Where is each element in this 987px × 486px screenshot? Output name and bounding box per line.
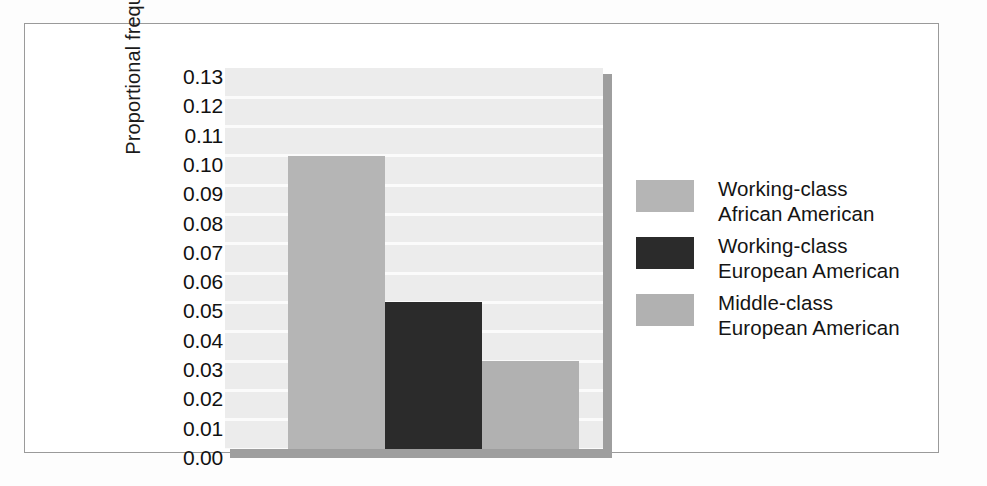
- legend: Working-classAfrican AmericanWorking-cla…: [636, 176, 956, 347]
- gridline: [225, 125, 603, 128]
- y-tick-label: 0.03: [183, 359, 223, 380]
- legend-label-line1: Middle-class: [718, 290, 900, 315]
- plot-shadow-right: [603, 74, 612, 455]
- legend-label: Middle-classEuropean American: [718, 290, 900, 340]
- y-tick-label: 0.05: [183, 300, 223, 321]
- bar-2: [385, 302, 482, 449]
- legend-item[interactable]: Working-classAfrican American: [636, 176, 956, 226]
- plot-axis-baseline: [230, 449, 612, 458]
- figure-frame: Proportional frequency 0.13 0.12 0.11 0.…: [24, 23, 939, 453]
- legend-label-line2: European American: [718, 315, 900, 340]
- legend-label-line2: African American: [718, 201, 875, 226]
- y-tick-label: 0.13: [183, 66, 223, 87]
- bar-chart: Proportional frequency 0.13 0.12 0.11 0.…: [125, 54, 625, 474]
- legend-swatch-icon: [636, 294, 694, 326]
- legend-swatch-icon: [636, 180, 694, 212]
- gridline: [225, 272, 603, 275]
- legend-label-line1: Working-class: [718, 233, 900, 258]
- gridline: [225, 213, 603, 216]
- y-tick-label: 0.11: [184, 125, 223, 146]
- y-tick-label: 0.01: [183, 418, 223, 439]
- legend-label-line1: Working-class: [718, 176, 875, 201]
- y-tick-label: 0.00: [183, 447, 223, 468]
- y-tick-label: 0.04: [183, 330, 223, 351]
- y-tick-label: 0.02: [183, 388, 223, 409]
- y-tick-label: 0.08: [183, 213, 223, 234]
- plot-area: [225, 68, 603, 449]
- bar-1: [288, 156, 385, 449]
- legend-label-line2: European American: [718, 258, 900, 283]
- y-tick-label: 0.06: [183, 271, 223, 292]
- y-tick-label: 0.09: [183, 183, 223, 204]
- legend-swatch-icon: [636, 237, 694, 269]
- plot-area-wrapper: [225, 68, 611, 460]
- legend-label: Working-classAfrican American: [718, 176, 875, 226]
- gridline: [225, 184, 603, 187]
- gridline: [225, 96, 603, 99]
- y-tick-label: 0.12: [183, 95, 223, 116]
- bar-3: [482, 361, 579, 449]
- y-tick-label: 0.07: [183, 242, 223, 263]
- gridline: [225, 242, 603, 245]
- y-tick-label: 0.10: [183, 154, 223, 175]
- legend-item[interactable]: Middle-classEuropean American: [636, 290, 956, 340]
- legend-label: Working-classEuropean American: [718, 233, 900, 283]
- gridline: [225, 154, 603, 157]
- chart-page: Proportional frequency 0.13 0.12 0.11 0.…: [0, 0, 987, 486]
- y-axis-tick-labels: 0.13 0.12 0.11 0.10 0.09 0.08 0.07 0.06 …: [161, 62, 223, 454]
- y-axis-title: Proportional frequency: [122, 0, 146, 173]
- legend-item[interactable]: Working-classEuropean American: [636, 233, 956, 283]
